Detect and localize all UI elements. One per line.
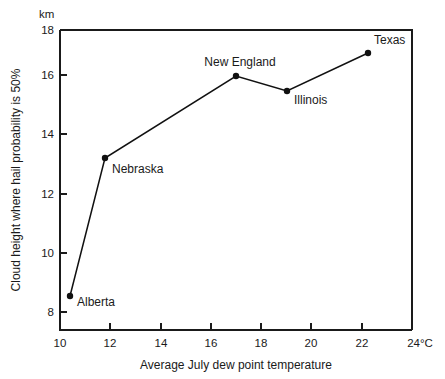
data-point-illinois[interactable] [284,88,290,94]
x-tick-label-10: 10 [54,337,67,349]
data-point-new-england[interactable] [233,73,239,79]
x-tick-label-24: 24°C [407,337,433,349]
y-tick-label-14: 14 [41,128,54,140]
x-tick-label-14: 14 [155,337,168,349]
x-tick-label-16: 16 [205,337,218,349]
x-axis-ticks [60,323,412,330]
y-tick-label-10: 10 [41,247,54,259]
point-label-new-england: New England [204,55,275,69]
point-label-nebraska: Nebraska [112,162,164,176]
y-axis-title: Cloud height where hail probability is 5… [9,68,23,291]
data-point-labels: Alberta Nebraska New England Illinois Te… [77,33,405,309]
point-label-alberta: Alberta [77,295,115,309]
data-point-texas[interactable] [365,50,371,56]
point-label-illinois: Illinois [294,93,327,107]
chart-figure: 18 16 14 12 10 8 km 10 12 14 16 18 2 [0,0,445,379]
line-chart: 18 16 14 12 10 8 km 10 12 14 16 18 2 [0,0,445,379]
x-tick-label-22: 22 [356,337,369,349]
x-axis-title: Average July dew point temperature [140,358,332,372]
y-tick-label-8: 8 [48,306,54,318]
x-tick-label-20: 20 [305,337,318,349]
y-tick-label-16: 16 [41,69,54,81]
y-axis-unit-label: km [39,8,54,20]
point-label-texas: Texas [374,33,405,47]
x-axis-tick-labels: 10 12 14 16 18 20 22 24°C [54,337,433,349]
x-tick-label-12: 12 [104,337,117,349]
y-tick-label-12: 12 [41,188,54,200]
y-tick-label-18: 18 [41,24,54,36]
x-tick-label-18: 18 [255,337,268,349]
y-axis-ticks [60,30,67,312]
data-point-nebraska[interactable] [102,155,108,161]
data-point-alberta[interactable] [67,293,73,299]
y-axis-tick-labels: 18 16 14 12 10 8 [41,24,54,318]
